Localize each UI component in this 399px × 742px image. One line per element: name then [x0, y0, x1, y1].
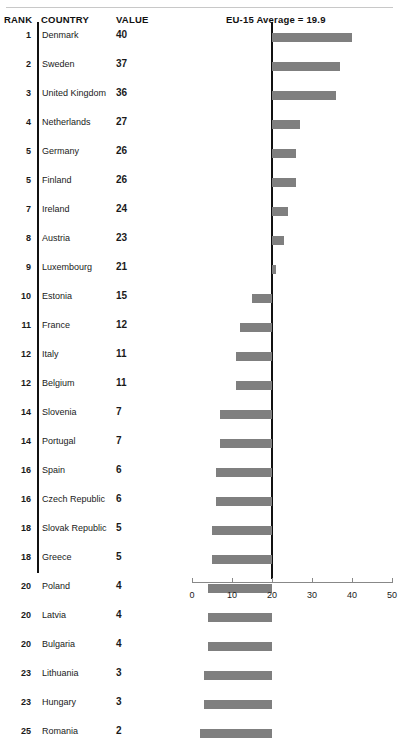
row-country: Czech Republic — [42, 494, 105, 505]
x-axis-tick-label: 40 — [341, 590, 363, 600]
row-rank: 12 — [0, 349, 31, 360]
row-rank: 10 — [0, 291, 31, 302]
table-row: 11France12 — [0, 317, 399, 346]
row-rank: 8 — [0, 233, 31, 244]
table-row: 14Slovenia7 — [0, 404, 399, 433]
table-row: 9Luxembourg21 — [0, 259, 399, 288]
row-country: Netherlands — [42, 117, 91, 128]
row-rank: 20 — [0, 610, 31, 621]
row-country: France — [42, 320, 70, 331]
table-row: 10Estonia15 — [0, 288, 399, 317]
table-row: 12Belgium11 — [0, 375, 399, 404]
table-row: 25Romania2 — [0, 723, 399, 742]
row-rank: 14 — [0, 407, 31, 418]
row-country: Denmark — [42, 30, 79, 41]
row-value: 37 — [116, 58, 134, 69]
row-value: 21 — [116, 261, 134, 272]
row-country: Greece — [42, 552, 72, 563]
table-row: 5Germany26 — [0, 143, 399, 172]
row-rank: 23 — [0, 697, 31, 708]
row-country: Bulgaria — [42, 639, 75, 650]
x-axis-tick — [272, 578, 273, 583]
row-value: 6 — [116, 493, 134, 504]
x-axis-tick — [392, 578, 393, 583]
x-axis-tick — [192, 578, 193, 583]
row-rank: 25 — [0, 726, 31, 737]
row-country: Belgium — [42, 378, 75, 389]
row-rank: 3 — [0, 88, 31, 99]
row-rank: 11 — [0, 320, 31, 331]
row-country: Slovak Republic — [42, 523, 107, 534]
row-value: 11 — [116, 377, 134, 388]
row-value: 4 — [116, 580, 134, 591]
row-country: Luxembourg — [42, 262, 92, 273]
row-value: 26 — [116, 174, 134, 185]
x-axis-tick-label: 30 — [301, 590, 323, 600]
row-rank: 1 — [0, 30, 31, 41]
row-rank: 5 — [0, 146, 31, 157]
row-value: 11 — [116, 348, 134, 359]
row-value: 3 — [116, 696, 134, 707]
row-rank: 2 — [0, 59, 31, 70]
row-country: Spain — [42, 465, 65, 476]
table-row: 4Netherlands27 — [0, 114, 399, 143]
row-value: 4 — [116, 609, 134, 620]
row-value: 3 — [116, 667, 134, 678]
table-row: 14Portugal7 — [0, 433, 399, 462]
table-row: 7Ireland24 — [0, 201, 399, 230]
row-value: 6 — [116, 464, 134, 475]
table-row: 2Sweden37 — [0, 56, 399, 85]
table-row: 12Italy11 — [0, 346, 399, 375]
row-value: 27 — [116, 116, 134, 127]
row-value: 24 — [116, 203, 134, 214]
table-row: 20Bulgaria4 — [0, 636, 399, 665]
row-value: 2 — [116, 725, 134, 736]
x-axis-tick-label: 20 — [261, 590, 283, 600]
row-country: United Kingdom — [42, 88, 106, 99]
row-rank: 23 — [0, 668, 31, 679]
row-rank: 20 — [0, 581, 31, 592]
table-row: 8Austria23 — [0, 230, 399, 259]
row-country: Latvia — [42, 610, 66, 621]
x-axis-tick — [352, 578, 353, 583]
row-value: 15 — [116, 290, 134, 301]
table-row: 18Slovak Republic5 — [0, 520, 399, 549]
row-rank: 18 — [0, 523, 31, 534]
row-country: Estonia — [42, 291, 72, 302]
row-country: Italy — [42, 349, 59, 360]
row-country: Portugal — [42, 436, 76, 447]
row-rank: 4 — [0, 117, 31, 128]
x-axis-tick-label: 50 — [381, 590, 399, 600]
table-row: 16Czech Republic6 — [0, 491, 399, 520]
row-country: Slovenia — [42, 407, 77, 418]
row-country: Romania — [42, 726, 78, 737]
table-row: 23Lithuania3 — [0, 665, 399, 694]
x-axis-tick-label: 0 — [181, 590, 203, 600]
table-row: 1Denmark40 — [0, 27, 399, 56]
row-rank: 18 — [0, 552, 31, 563]
row-country: Lithuania — [42, 668, 79, 679]
row-value: 40 — [116, 29, 134, 40]
row-value: 12 — [116, 319, 134, 330]
x-axis-tick — [312, 578, 313, 583]
row-rank: 16 — [0, 465, 31, 476]
row-rank: 7 — [0, 204, 31, 215]
x-axis-tick — [232, 578, 233, 583]
row-rank: 12 — [0, 378, 31, 389]
x-axis-line — [192, 582, 392, 583]
row-value: 36 — [116, 87, 134, 98]
row-rank: 14 — [0, 436, 31, 447]
x-axis-tick-label: 10 — [221, 590, 243, 600]
row-value: 26 — [116, 145, 134, 156]
table-row: 20Latvia4 — [0, 607, 399, 636]
table-row: 5Finland26 — [0, 172, 399, 201]
row-value: 7 — [116, 406, 134, 417]
row-value: 7 — [116, 435, 134, 446]
table-row: 16Spain6 — [0, 462, 399, 491]
table-row: 23Hungary3 — [0, 694, 399, 723]
row-country: Sweden — [42, 59, 75, 70]
row-rank: 16 — [0, 494, 31, 505]
table-row: 18Greece5 — [0, 549, 399, 578]
row-country: Austria — [42, 233, 70, 244]
